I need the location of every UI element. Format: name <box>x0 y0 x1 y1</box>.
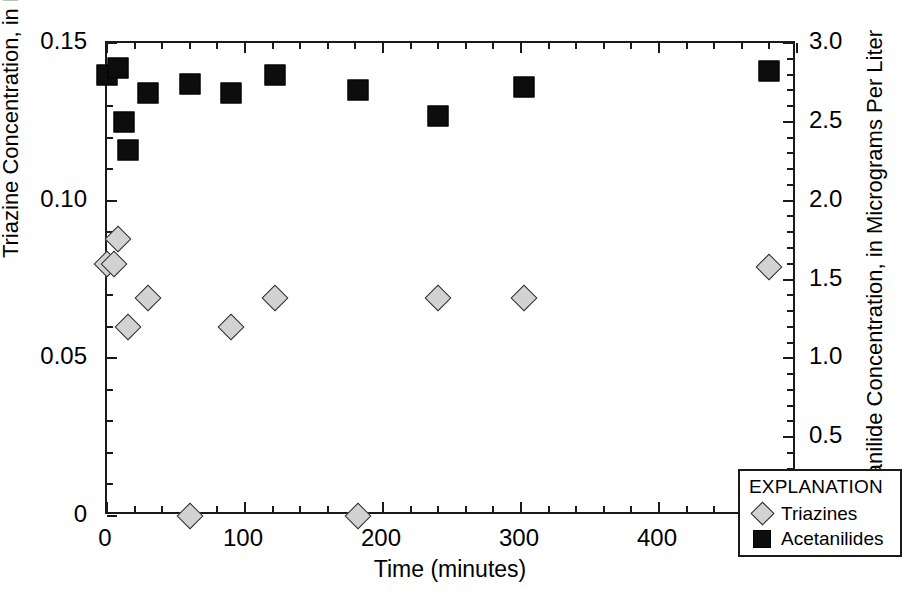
axis-tick <box>107 420 113 422</box>
axis-tick <box>107 452 113 454</box>
axis-tick <box>327 506 329 512</box>
axis-tick <box>741 43 743 49</box>
y-tick-label-right: 1.0 <box>809 344 842 368</box>
data-point-triazines <box>176 503 203 530</box>
axis-tick <box>787 184 793 186</box>
axis-tick <box>107 168 113 170</box>
axis-tick <box>161 43 163 49</box>
axis-tick <box>787 420 793 422</box>
legend-title: EXPLANATION <box>749 476 900 498</box>
axis-tick <box>520 502 522 512</box>
plot-area: EXPLANATION Triazines Acetanilides <box>105 41 795 514</box>
data-point-acetanilides <box>221 83 242 104</box>
axis-tick <box>106 502 108 512</box>
axis-tick <box>630 43 632 49</box>
y-tick-label-left: 0.10 <box>0 187 87 211</box>
legend-item-triazines: Triazines <box>749 501 900 526</box>
axis-tick <box>299 506 301 512</box>
axis-tick <box>783 42 793 44</box>
axis-tick <box>658 43 660 53</box>
data-point-triazines <box>135 285 162 312</box>
axis-tick <box>796 43 798 53</box>
axis-tick <box>783 279 793 281</box>
axis-tick <box>134 43 136 49</box>
axis-tick <box>787 452 793 454</box>
data-point-triazines <box>105 225 132 252</box>
axis-tick <box>107 515 117 517</box>
axis-tick <box>787 168 793 170</box>
y-tick-label-right: 2.5 <box>809 108 842 132</box>
axis-tick <box>686 43 688 49</box>
data-point-triazines <box>114 313 141 340</box>
axis-tick <box>787 247 793 249</box>
axis-tick <box>548 43 550 49</box>
axis-tick <box>382 502 384 512</box>
data-point-acetanilides <box>117 140 138 161</box>
y-tick-label-right: 0.5 <box>809 423 842 447</box>
axis-tick <box>630 506 632 512</box>
y-tick-label-left: 0.05 <box>0 344 87 368</box>
x-tick-label: 300 <box>499 526 539 550</box>
axis-tick <box>299 43 301 49</box>
axis-tick <box>107 326 113 328</box>
axis-tick <box>787 326 793 328</box>
axis-tick <box>189 43 191 49</box>
axis-tick <box>216 506 218 512</box>
axis-tick <box>410 43 412 49</box>
axis-tick <box>107 200 117 202</box>
axis-tick <box>787 137 793 139</box>
y-tick-label-right: 2.0 <box>809 187 842 211</box>
data-point-triazines <box>510 285 537 312</box>
axis-tick <box>787 405 793 407</box>
axis-tick <box>713 506 715 512</box>
data-point-acetanilides <box>759 61 780 82</box>
legend-item-acetanilides: Acetanilides <box>749 526 900 551</box>
axis-tick <box>603 43 605 49</box>
axis-tick <box>787 294 793 296</box>
axis-tick <box>244 43 246 53</box>
axis-tick <box>354 43 356 49</box>
axis-tick <box>787 263 793 265</box>
axis-tick <box>272 506 274 512</box>
x-tick-label: 400 <box>637 526 677 550</box>
axis-tick <box>787 310 793 312</box>
axis-tick <box>244 502 246 512</box>
axis-tick <box>787 373 793 375</box>
axis-tick <box>787 215 793 217</box>
axis-tick <box>410 506 412 512</box>
axis-tick <box>106 43 108 53</box>
data-point-acetanilides <box>265 64 286 85</box>
axis-tick <box>783 121 793 123</box>
axis-tick <box>327 43 329 49</box>
square-marker-icon <box>749 530 775 548</box>
axis-tick <box>492 43 494 49</box>
axis-tick <box>134 506 136 512</box>
x-tick-label: 100 <box>223 526 263 550</box>
axis-tick <box>437 43 439 49</box>
axis-tick <box>107 42 117 44</box>
axis-tick <box>107 389 113 391</box>
axis-tick <box>161 506 163 512</box>
data-point-triazines <box>262 285 289 312</box>
data-point-acetanilides <box>179 73 200 94</box>
axis-tick <box>107 105 113 107</box>
axis-tick <box>787 105 793 107</box>
axis-tick <box>520 43 522 53</box>
axis-tick <box>216 43 218 49</box>
x-axis-title: Time (minutes) <box>105 556 795 583</box>
axis-tick <box>437 506 439 512</box>
axis-tick <box>658 502 660 512</box>
axis-tick <box>686 506 688 512</box>
axis-tick <box>272 43 274 49</box>
axis-tick <box>575 506 577 512</box>
legend-label-acetanilides: Acetanilides <box>781 528 883 550</box>
data-point-triazines <box>218 313 245 340</box>
axis-tick <box>787 74 793 76</box>
data-point-acetanilides <box>513 77 534 98</box>
data-point-triazines <box>425 285 452 312</box>
axis-tick <box>548 506 550 512</box>
axis-tick <box>465 506 467 512</box>
y-tick-label-left: 0 <box>0 502 87 526</box>
data-point-acetanilides <box>428 105 449 126</box>
axis-tick <box>107 294 113 296</box>
